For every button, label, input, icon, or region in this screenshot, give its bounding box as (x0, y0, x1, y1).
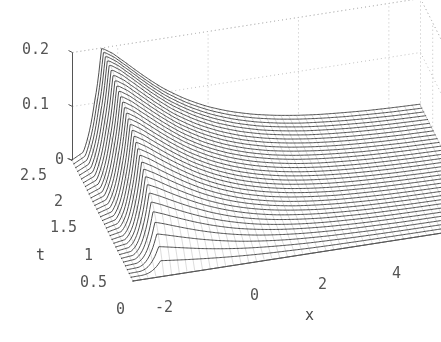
x-tick-label: -2 (155, 300, 173, 315)
figure-3d-surface-plot: 0.2 0.1 0 2.5 2 1.5 1 0.5 0 -2 0 2 4 t x (0, 0, 441, 342)
t-tick-label: 0 (116, 302, 125, 317)
t-tick-label: 2 (54, 194, 63, 209)
t-tick-label: 0.5 (80, 275, 107, 290)
z-tick-label: 0 (55, 152, 64, 167)
z-tick-label: 0.2 (22, 42, 49, 57)
t-tick-label: 2.5 (20, 168, 47, 183)
t-axis-title: t (36, 248, 45, 263)
x-tick-label: 2 (318, 277, 327, 292)
z-tick-label: 0.1 (22, 97, 49, 112)
t-tick-label: 1.5 (50, 220, 77, 235)
t-tick-label: 1 (84, 248, 93, 263)
x-tick-label: 4 (392, 266, 401, 281)
surface-plot-canvas (0, 0, 441, 342)
x-axis-title: x (305, 308, 314, 323)
x-tick-label: 0 (250, 288, 259, 303)
